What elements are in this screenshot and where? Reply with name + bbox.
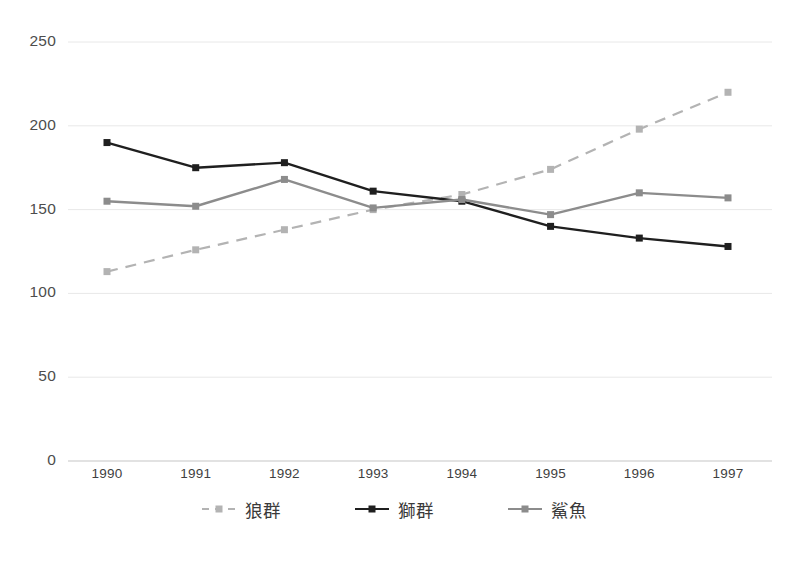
x-tick-label: 1996	[599, 466, 679, 481]
data-point-marker	[725, 243, 732, 250]
series-line	[107, 92, 728, 271]
data-point-marker	[547, 166, 554, 173]
y-tick-label: 100	[0, 283, 56, 301]
data-point-marker	[104, 198, 111, 205]
data-point-marker	[547, 223, 554, 230]
data-point-marker	[192, 164, 199, 171]
legend-label: 鯊魚	[551, 497, 587, 522]
series-1	[104, 89, 732, 275]
plot-area	[0, 0, 789, 566]
legend-marker-icon	[508, 502, 542, 516]
legend-label: 獅群	[398, 497, 434, 522]
legend-item-1[interactable]: 狼群	[202, 497, 281, 522]
data-point-marker	[104, 268, 111, 275]
gridlines	[68, 42, 772, 461]
chart-canvas	[0, 0, 789, 566]
x-tick-label: 1994	[422, 466, 502, 481]
y-tick-label: 200	[0, 116, 56, 134]
y-tick-label: 250	[0, 32, 56, 50]
data-point-marker	[281, 176, 288, 183]
legend-item-3[interactable]: 鯊魚	[508, 497, 587, 522]
data-point-marker	[104, 139, 111, 146]
data-point-marker	[192, 203, 199, 210]
x-tick-label: 1993	[333, 466, 413, 481]
legend-marker-icon	[202, 502, 236, 516]
x-tick-label: 1991	[156, 466, 236, 481]
x-tick-label: 1995	[511, 466, 591, 481]
data-point-marker	[192, 246, 199, 253]
data-point-marker	[370, 188, 377, 195]
data-point-marker	[725, 194, 732, 201]
data-point-marker	[370, 204, 377, 211]
data-point-marker	[281, 159, 288, 166]
x-tick-label: 1997	[688, 466, 768, 481]
data-point-marker	[458, 196, 465, 203]
data-point-marker	[547, 211, 554, 218]
x-tick-label: 1992	[244, 466, 324, 481]
legend-label: 狼群	[245, 497, 281, 522]
x-tick-label: 1990	[67, 466, 147, 481]
y-tick-label: 0	[0, 451, 56, 469]
y-tick-label: 150	[0, 200, 56, 218]
data-point-marker	[281, 226, 288, 233]
data-point-marker	[636, 126, 643, 133]
y-tick-label: 50	[0, 367, 56, 385]
legend-item-2[interactable]: 獅群	[355, 497, 434, 522]
chart-legend: 狼群獅群鯊魚	[0, 492, 789, 526]
series-layer	[104, 89, 732, 275]
line-chart: 250200150100500 199019911992199319941995…	[0, 0, 789, 566]
data-point-marker	[636, 235, 643, 242]
data-point-marker	[636, 189, 643, 196]
data-point-marker	[725, 89, 732, 96]
legend-marker-icon	[355, 502, 389, 516]
